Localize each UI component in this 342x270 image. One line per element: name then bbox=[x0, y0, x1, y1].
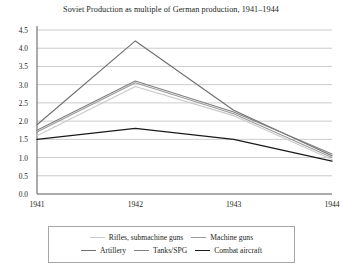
y-tick-label: 3.5 bbox=[4, 62, 28, 71]
legend-label: Rifles, submachine guns bbox=[109, 234, 183, 242]
legend-label: Artillery bbox=[100, 247, 126, 255]
legend-label: Tanks/SPG bbox=[153, 247, 187, 255]
legend-item[interactable]: Combat aircraft bbox=[195, 247, 262, 255]
x-tick-label: 1943 bbox=[210, 200, 258, 209]
y-tick-label: 1.0 bbox=[4, 153, 28, 162]
y-tick-label: 4.0 bbox=[4, 44, 28, 53]
legend-item[interactable]: Rifles, submachine guns bbox=[90, 234, 183, 242]
legend-line-swatch bbox=[90, 237, 105, 238]
series-line bbox=[37, 81, 332, 154]
legend-line-swatch bbox=[191, 237, 206, 238]
series-line bbox=[37, 128, 332, 161]
plot-area: 0.00.51.01.52.02.53.03.54.04.5 194119421… bbox=[0, 0, 342, 205]
legend-line-swatch bbox=[195, 250, 210, 251]
legend-line-swatch bbox=[134, 250, 149, 251]
y-tick-label: 0.5 bbox=[4, 171, 28, 180]
x-tick-label: 1941 bbox=[13, 200, 61, 209]
legend-item[interactable]: Machine guns bbox=[191, 234, 253, 242]
y-tick-label: 2.0 bbox=[4, 117, 28, 126]
y-tick-label: 4.5 bbox=[4, 26, 28, 35]
legend-item[interactable]: Tanks/SPG bbox=[134, 247, 187, 255]
chart-figure: Soviet Production as multiple of German … bbox=[0, 0, 342, 270]
legend-label: Machine guns bbox=[210, 234, 253, 242]
series-line bbox=[37, 83, 332, 158]
legend-row: ArtilleryTanks/SPGCombat aircraft bbox=[56, 244, 287, 257]
x-tick-label: 1942 bbox=[111, 200, 159, 209]
x-tick-label: 1944 bbox=[308, 200, 342, 209]
legend-row: Rifles, submachine gunsMachine guns bbox=[56, 231, 287, 244]
y-tick-label: 1.5 bbox=[4, 135, 28, 144]
series-line bbox=[37, 86, 332, 159]
legend-item[interactable]: Artillery bbox=[81, 247, 126, 255]
legend-label: Combat aircraft bbox=[214, 247, 262, 255]
y-tick-label: 0.0 bbox=[4, 190, 28, 199]
legend-line-swatch bbox=[81, 250, 96, 251]
y-tick-label: 3.0 bbox=[4, 80, 28, 89]
chart-legend: Rifles, submachine gunsMachine gunsArtil… bbox=[48, 226, 295, 263]
y-tick-label: 2.5 bbox=[4, 98, 28, 107]
plot-svg bbox=[0, 0, 342, 205]
